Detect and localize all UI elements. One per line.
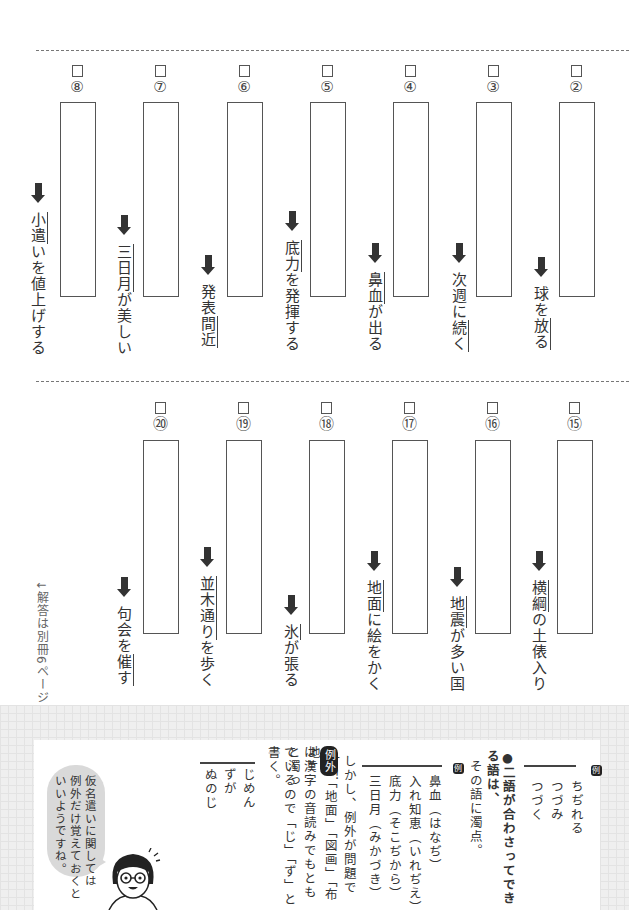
teacher-character-icon [103,848,163,910]
answer-box[interactable] [226,440,262,634]
dashed-divider-top [36,50,629,51]
question-number: ④ [396,79,424,95]
check-box[interactable] [238,402,249,414]
answer-box[interactable] [60,102,96,297]
answer-box[interactable] [475,440,511,634]
question-text: 並木通りを歩く [197,576,215,688]
question-text: 球を放る [531,286,549,350]
question-number: ⑥ [230,79,258,95]
answer-box[interactable] [143,440,179,634]
example-badge: 例 [586,765,602,776]
question-text: 三日月が美しい [114,244,132,356]
example3-rule [200,762,255,764]
check-box[interactable] [155,402,166,414]
example1-item: つづく [527,780,543,822]
question-number: ⑤ [313,79,341,95]
question-number: ⑲ [229,416,257,432]
check-box[interactable] [72,65,83,77]
example1-rule [524,765,576,767]
question-text: 地面に絵をかく [364,580,382,692]
check-box[interactable] [155,65,166,77]
check-box[interactable] [404,402,415,414]
question-text: 小遣いを値上げする [28,212,46,356]
question-number: ⑮ [560,416,588,432]
rule-continuation: その語に濁点。 [466,760,482,858]
example2-item: 鼻血（はなぢ） [425,775,441,873]
question-text: 氷が張る [281,624,299,688]
question-text: 横綱の土俵入り [529,580,547,692]
question-text: 発表間近 [198,284,216,348]
answer-box[interactable] [559,102,595,297]
answer-box[interactable] [143,102,179,297]
answer-box[interactable] [309,440,345,634]
question-number: ⑱ [312,416,340,432]
example3-item: ぬのじ [201,768,217,810]
answer-box[interactable] [227,102,263,297]
question-number: ⑯ [478,416,506,432]
question-text: 鼻血が出る [365,272,383,352]
exception-continuation: ているので「じ」「ず」と書く。 [264,746,296,910]
answer-box[interactable] [392,440,428,634]
speech-bubble-text: 仮名遣いに関しては例外だけ覚えておくといいようですね。 [52,775,97,900]
check-box[interactable] [321,402,332,414]
answer-box[interactable] [393,102,429,297]
question-number: ⑦ [146,79,174,95]
question-text: 句会を催す [114,606,132,686]
dashed-divider-middle [36,381,629,382]
check-box[interactable] [322,65,333,77]
check-box[interactable] [488,65,499,77]
answer-box[interactable] [310,102,346,297]
example1-item: ちぢれる [567,780,583,836]
question-number: ⑰ [395,416,423,432]
answer-box[interactable] [476,102,512,297]
question-text: 底力を発揮する [282,240,300,352]
example-badge: 例 [448,763,464,774]
question-number: ⑧ [63,79,91,95]
question-number: ② [562,79,590,95]
rule-title: ●二語が合わさってできる語は、 [483,750,515,910]
example3-item: じめん [239,768,255,810]
example3-item: ずが [220,768,236,796]
example2-item: 三日月（みかづき） [365,775,381,901]
check-box[interactable] [571,65,582,77]
question-text: 地震が多い国 [447,596,465,692]
example2-item: 底力（そこぢから） [385,775,401,901]
example1-item: つづみ [547,780,563,822]
check-box[interactable] [405,65,416,77]
check-box[interactable] [569,402,580,414]
example2-item: 入れ知恵（いれぢえ） [405,775,421,910]
question-text: 次週に続く [449,272,467,352]
answer-reference-note: ↓解答は別冊6ページ [33,580,50,704]
answer-box[interactable] [557,440,593,634]
check-box[interactable] [239,65,250,77]
question-number: ③ [479,79,507,95]
question-number: ⑳ [146,416,174,432]
check-box[interactable] [487,402,498,414]
example2-rule [362,765,442,767]
